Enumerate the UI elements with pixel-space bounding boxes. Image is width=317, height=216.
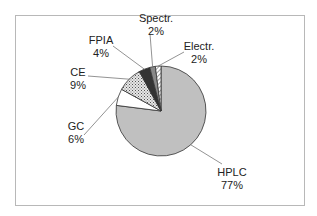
leader-line [150,34,153,67]
slice-label: CE [70,66,85,78]
slice-percent: 9% [70,79,86,91]
slice-label: HPLC [217,166,246,178]
leader-line [113,46,144,69]
slice-percent: 4% [93,47,109,59]
slice-percent: 6% [68,133,84,145]
pie-slices [116,66,206,156]
slice-percent: 2% [148,25,164,37]
slice-label: Spectr. [139,12,173,24]
leader-line [84,97,118,135]
pie-chart: HPLC77%GC6%CE9%FPIA4%Spectr.2%Electr.2% [0,0,317,216]
leader-line [88,76,129,79]
leader-line [158,52,184,66]
slice-label: Electr. [184,40,215,52]
leader-line [191,145,222,164]
slice-percent: 2% [191,53,207,65]
slice-percent: 77% [221,179,243,191]
slice-label: GC [68,120,85,132]
slice-label: FPIA [89,34,114,46]
